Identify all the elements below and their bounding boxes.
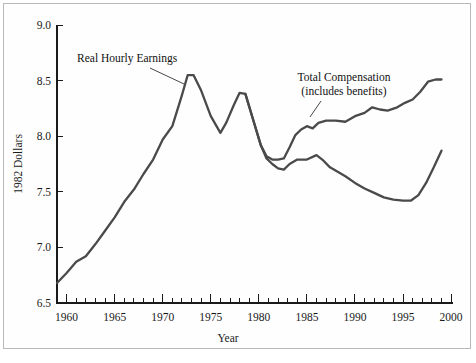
x-axis-tick-labels: 196019651970197519801985199019952000: [55, 311, 463, 323]
x-axis-title: Year: [217, 332, 238, 344]
y-tick-label: 7.5: [37, 186, 52, 198]
x-tick-label: 1995: [392, 311, 415, 323]
y-axis-title: 1982 Dollars: [12, 134, 24, 194]
axis-lines: [57, 25, 453, 303]
real-hourly-earnings-label-text: Real Hourly Earnings: [77, 52, 178, 65]
line-chart: 6.57.07.58.08.59.0 196019651970197519801…: [0, 0, 476, 363]
real-hourly-earnings-label: Real Hourly Earnings: [77, 52, 184, 84]
chart-page: 6.57.07.58.08.59.0 196019651970197519801…: [0, 0, 476, 363]
x-tick-label: 1985: [295, 311, 318, 323]
data-series-group: [57, 75, 441, 283]
x-tick-label: 1965: [103, 311, 126, 323]
total-compensation-label-leader: [310, 101, 321, 117]
x-axis-ticks: [57, 294, 451, 303]
y-axis-ticks: [57, 25, 63, 303]
x-tick-label: 1960: [55, 311, 78, 323]
y-tick-label: 7.0: [37, 241, 52, 253]
y-axis-tick-labels: 6.57.07.58.08.59.0: [37, 19, 52, 309]
total-compensation-label-text: Total Compensation(includes benefits): [298, 71, 391, 98]
y-tick-label: 9.0: [37, 19, 52, 31]
axes-group: [57, 25, 453, 303]
y-tick-label: 6.5: [37, 297, 52, 309]
total-compensation-label: Total Compensation(includes benefits): [298, 71, 391, 117]
y-tick-label: 8.0: [37, 130, 52, 142]
x-tick-label: 2000: [440, 311, 463, 323]
x-tick-label: 1970: [151, 311, 174, 323]
y-tick-label: 8.5: [37, 75, 52, 87]
real-hourly-earnings-label-leader: [150, 68, 184, 84]
x-tick-label: 1980: [247, 311, 270, 323]
x-tick-label: 1990: [343, 311, 366, 323]
x-tick-label: 1975: [199, 311, 222, 323]
